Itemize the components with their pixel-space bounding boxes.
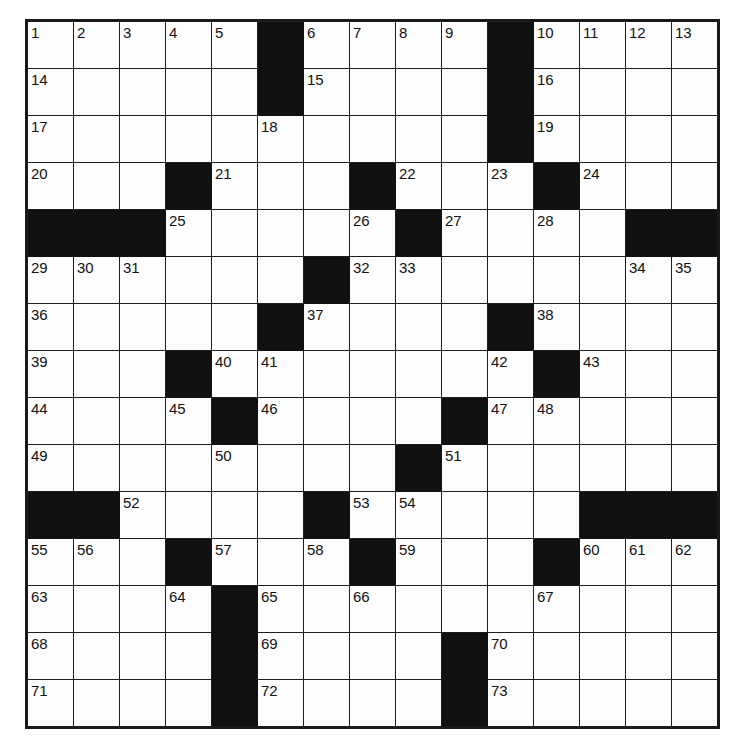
crossword-cell[interactable] xyxy=(626,304,672,351)
crossword-cell[interactable] xyxy=(350,351,396,398)
crossword-cell[interactable] xyxy=(396,69,442,116)
crossword-cell-46[interactable]: 46 xyxy=(258,398,304,445)
crossword-cell[interactable] xyxy=(74,116,120,163)
crossword-cell-21[interactable]: 21 xyxy=(212,163,258,210)
crossword-cell[interactable] xyxy=(212,304,258,351)
crossword-cell-56[interactable]: 56 xyxy=(74,539,120,586)
crossword-cell-24[interactable]: 24 xyxy=(580,163,626,210)
crossword-cell[interactable] xyxy=(488,539,534,586)
crossword-cell[interactable] xyxy=(580,445,626,492)
crossword-cell[interactable] xyxy=(396,586,442,633)
crossword-cell[interactable] xyxy=(580,304,626,351)
crossword-cell[interactable] xyxy=(488,492,534,539)
crossword-cell-16[interactable]: 16 xyxy=(534,69,580,116)
crossword-cell[interactable] xyxy=(396,304,442,351)
crossword-cell[interactable] xyxy=(304,116,350,163)
crossword-cell[interactable] xyxy=(166,445,212,492)
crossword-cell[interactable] xyxy=(74,680,120,728)
crossword-cell-41[interactable]: 41 xyxy=(258,351,304,398)
crossword-cell-22[interactable]: 22 xyxy=(396,163,442,210)
crossword-cell[interactable] xyxy=(626,351,672,398)
crossword-cell-64[interactable]: 64 xyxy=(166,586,212,633)
crossword-cell[interactable] xyxy=(350,304,396,351)
crossword-cell[interactable] xyxy=(396,633,442,680)
crossword-cell-13[interactable]: 13 xyxy=(672,21,719,69)
crossword-cell[interactable] xyxy=(350,398,396,445)
crossword-cell[interactable] xyxy=(166,69,212,116)
crossword-cell-58[interactable]: 58 xyxy=(304,539,350,586)
crossword-cell-23[interactable]: 23 xyxy=(488,163,534,210)
crossword-cell[interactable] xyxy=(534,445,580,492)
crossword-cell[interactable] xyxy=(396,398,442,445)
crossword-cell-54[interactable]: 54 xyxy=(396,492,442,539)
crossword-cell[interactable] xyxy=(672,351,719,398)
crossword-cell[interactable] xyxy=(304,163,350,210)
crossword-cell[interactable] xyxy=(534,680,580,728)
crossword-cell[interactable] xyxy=(120,69,166,116)
crossword-cell-15[interactable]: 15 xyxy=(304,69,350,116)
crossword-cell-63[interactable]: 63 xyxy=(27,586,74,633)
crossword-cell[interactable] xyxy=(120,586,166,633)
crossword-cell[interactable] xyxy=(74,398,120,445)
crossword-cell-48[interactable]: 48 xyxy=(534,398,580,445)
crossword-cell[interactable] xyxy=(166,116,212,163)
crossword-cell[interactable] xyxy=(672,163,719,210)
crossword-cell-69[interactable]: 69 xyxy=(258,633,304,680)
crossword-cell[interactable] xyxy=(672,680,719,728)
crossword-cell[interactable] xyxy=(120,304,166,351)
crossword-cell-35[interactable]: 35 xyxy=(672,257,719,304)
crossword-cell-36[interactable]: 36 xyxy=(27,304,74,351)
crossword-cell[interactable] xyxy=(488,257,534,304)
crossword-cell[interactable] xyxy=(442,586,488,633)
crossword-cell-9[interactable]: 9 xyxy=(442,21,488,69)
crossword-cell-39[interactable]: 39 xyxy=(27,351,74,398)
crossword-cell[interactable] xyxy=(672,633,719,680)
crossword-cell-8[interactable]: 8 xyxy=(396,21,442,69)
crossword-cell-4[interactable]: 4 xyxy=(166,21,212,69)
crossword-cell[interactable] xyxy=(626,633,672,680)
crossword-cell-2[interactable]: 2 xyxy=(74,21,120,69)
crossword-cell[interactable] xyxy=(166,680,212,728)
crossword-cell[interactable] xyxy=(304,445,350,492)
crossword-cell[interactable] xyxy=(350,680,396,728)
crossword-cell[interactable] xyxy=(350,445,396,492)
crossword-cell[interactable] xyxy=(580,398,626,445)
crossword-cell[interactable] xyxy=(166,492,212,539)
crossword-cell[interactable] xyxy=(350,116,396,163)
crossword-cell[interactable] xyxy=(258,163,304,210)
crossword-cell-3[interactable]: 3 xyxy=(120,21,166,69)
crossword-cell-25[interactable]: 25 xyxy=(166,210,212,257)
crossword-cell[interactable] xyxy=(212,257,258,304)
crossword-cell[interactable] xyxy=(488,210,534,257)
crossword-cell[interactable] xyxy=(212,210,258,257)
crossword-cell-5[interactable]: 5 xyxy=(212,21,258,69)
crossword-cell-42[interactable]: 42 xyxy=(488,351,534,398)
crossword-cell-31[interactable]: 31 xyxy=(120,257,166,304)
crossword-cell[interactable] xyxy=(442,257,488,304)
crossword-cell[interactable] xyxy=(580,257,626,304)
crossword-cell-17[interactable]: 17 xyxy=(27,116,74,163)
crossword-cell[interactable] xyxy=(626,116,672,163)
crossword-cell-67[interactable]: 67 xyxy=(534,586,580,633)
crossword-cell[interactable] xyxy=(626,445,672,492)
crossword-cell[interactable] xyxy=(120,539,166,586)
crossword-cell[interactable] xyxy=(442,163,488,210)
crossword-cell-30[interactable]: 30 xyxy=(74,257,120,304)
crossword-cell[interactable] xyxy=(120,633,166,680)
crossword-cell[interactable] xyxy=(626,163,672,210)
crossword-cell[interactable] xyxy=(166,257,212,304)
crossword-cell-68[interactable]: 68 xyxy=(27,633,74,680)
crossword-cell[interactable] xyxy=(258,445,304,492)
crossword-cell[interactable] xyxy=(120,163,166,210)
crossword-cell[interactable] xyxy=(350,633,396,680)
crossword-cell[interactable] xyxy=(534,492,580,539)
crossword-cell[interactable] xyxy=(74,163,120,210)
crossword-cell[interactable] xyxy=(258,492,304,539)
crossword-cell-10[interactable]: 10 xyxy=(534,21,580,69)
crossword-cell-60[interactable]: 60 xyxy=(580,539,626,586)
crossword-cell[interactable] xyxy=(580,633,626,680)
crossword-cell[interactable] xyxy=(442,69,488,116)
crossword-cell-7[interactable]: 7 xyxy=(350,21,396,69)
crossword-cell[interactable] xyxy=(258,539,304,586)
crossword-cell-72[interactable]: 72 xyxy=(258,680,304,728)
